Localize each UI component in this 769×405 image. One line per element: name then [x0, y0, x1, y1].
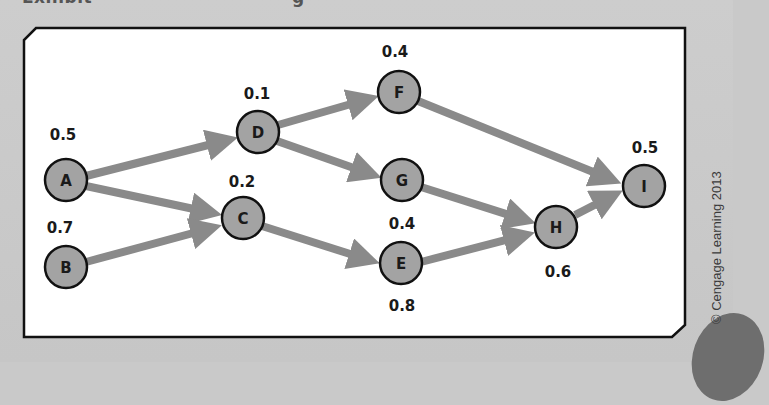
node-f-value: 0.4 — [382, 43, 409, 61]
node-c-value: 0.2 — [229, 173, 256, 191]
node-a-label: A — [60, 172, 72, 190]
node-d-label: D — [252, 124, 264, 142]
node-e-value: 0.8 — [389, 297, 416, 315]
node-h-value: 0.6 — [545, 263, 572, 281]
node-h-label: H — [550, 219, 563, 237]
node-b-label: B — [60, 259, 71, 277]
node-a-value: 0.5 — [50, 126, 77, 144]
node-i-label: I — [641, 178, 647, 196]
node-e-label: E — [396, 255, 406, 273]
node-g-label: G — [396, 172, 408, 190]
node-f-label: F — [394, 84, 404, 102]
node-g-value: 0.4 — [389, 215, 416, 233]
copyright-notice: © Cengage Learning 2013 — [709, 171, 724, 324]
node-b-value: 0.7 — [47, 219, 74, 237]
node-i-value: 0.5 — [632, 139, 659, 157]
node-d-value: 0.1 — [244, 85, 271, 103]
node-c-label: C — [237, 210, 248, 228]
diagram-frame — [24, 28, 685, 337]
